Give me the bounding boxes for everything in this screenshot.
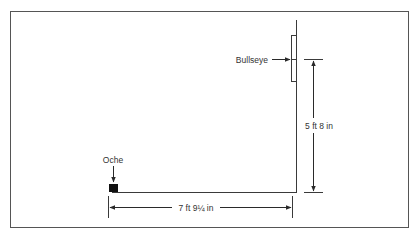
- distance-label: 7 ft 9¼ in: [179, 203, 214, 213]
- oche-label: Oche: [103, 155, 124, 165]
- diagram-frame: [11, 12, 409, 228]
- height-label: 5 ft 8 in: [305, 121, 333, 131]
- dart-setup-diagram: Oche Bullseye 5 ft 8 in 7 ft 9¼ in: [0, 0, 419, 232]
- oche-marker: [109, 184, 118, 192]
- bullseye-label: Bullseye: [236, 55, 268, 65]
- dartboard: [292, 36, 297, 82]
